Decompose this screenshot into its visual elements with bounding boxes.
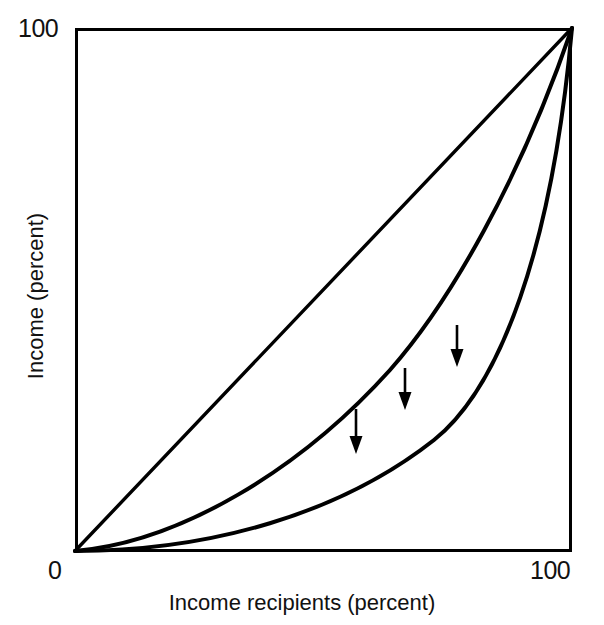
shift-arrow-right-head (451, 349, 464, 367)
shift-arrow-right (451, 325, 464, 367)
equality-line (75, 28, 572, 551)
lorenz-curve-figure: 100 0 100 Income recipients (percent) In… (0, 0, 604, 625)
y-axis-title: Income (percent) (23, 156, 49, 436)
plot-area (0, 0, 604, 625)
shift-arrow-middle-head (399, 392, 412, 410)
shift-arrow-middle (399, 368, 412, 410)
shift-arrow-left-head (350, 436, 363, 454)
y-axis-max-tick-label: 100 (18, 14, 58, 43)
x-axis-title: Income recipients (percent) (0, 590, 604, 616)
origin-tick-label: 0 (48, 556, 61, 585)
shift-arrow-left (350, 409, 363, 454)
x-axis-max-tick-label: 100 (530, 556, 570, 585)
